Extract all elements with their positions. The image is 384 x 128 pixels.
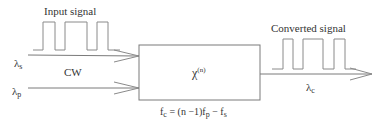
input-signal-label: Input signal (44, 6, 96, 17)
lambda-s-sub: s (19, 62, 22, 71)
formula-eq: = (n −1)f (167, 106, 206, 117)
converted-pulse-train (272, 39, 356, 69)
converted-signal-label: Converted signal (271, 23, 346, 34)
frequency-formula: fc = (n −1)fp − fs (160, 107, 227, 117)
lambda-s-label: λs (14, 58, 22, 71)
signal-arrow-line (28, 55, 139, 56)
lambda-p-label: λp (12, 86, 21, 99)
formula-s-sub: s (224, 110, 227, 119)
lambda-c-sub: c (311, 86, 315, 95)
lambda-p-sub: p (17, 90, 21, 99)
input-pulse-train (33, 22, 120, 50)
formula-minus: − f (210, 106, 224, 117)
cw-label: CW (64, 67, 82, 78)
chi-sup: (n) (197, 66, 205, 74)
chi-label: χ(n) (192, 67, 206, 79)
lambda-c-label: λc (306, 82, 315, 95)
